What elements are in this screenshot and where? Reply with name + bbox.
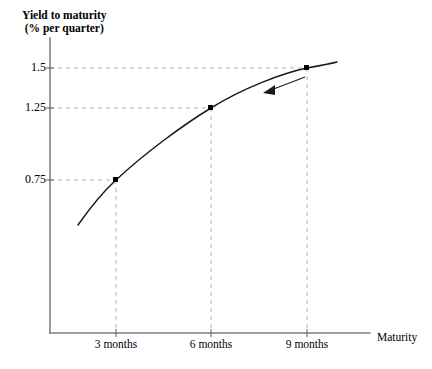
- y-tick-label-0-75: 0.75: [0, 173, 46, 186]
- data-point-9-months: [304, 65, 309, 70]
- y-axis-title: Yield to maturity (% per quarter): [22, 9, 107, 35]
- data-point-3-months: [113, 177, 118, 182]
- data-point-6-months: [208, 105, 213, 110]
- yield-curve-figure: Yield to maturity (% per quarter) 1.5 1.…: [0, 0, 432, 369]
- y-axis-title-main: Yield to maturity: [22, 9, 107, 21]
- yield-curve-line: [78, 62, 337, 225]
- x-tick-label-6-months: 6 months: [166, 338, 256, 351]
- y-tick-label-1-5: 1.5: [0, 61, 46, 74]
- x-tick-label-9-months: 9 months: [262, 338, 352, 351]
- y-tick-label-1-25: 1.25: [0, 101, 46, 114]
- x-tick-label-3-months: 3 months: [71, 338, 161, 351]
- chart-canvas: [0, 0, 432, 369]
- annotation-arrow-shaft: [271, 77, 305, 90]
- annotation-arrow-head: [263, 85, 275, 95]
- y-axis-title-sub: (% per quarter): [22, 22, 107, 35]
- x-axis-title: Maturity: [377, 331, 417, 344]
